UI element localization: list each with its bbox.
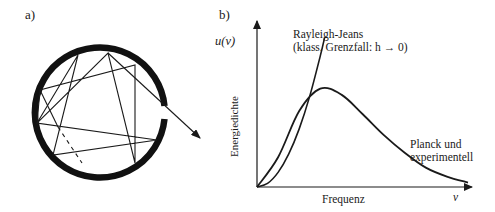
- y-axis-symbol: u(ν): [215, 35, 235, 48]
- cavity-diagram: [0, 0, 495, 212]
- cavity-wall: [35, 47, 165, 177]
- rayleigh-jeans-curve: [257, 38, 325, 187]
- emerging-ray-arrow: [108, 53, 200, 138]
- rayleigh-jeans-label-line1: Rayleigh-Jeans: [293, 28, 408, 41]
- planck-annotation: Planck und experimentell: [410, 138, 473, 164]
- rayleigh-jeans-annotation: Rayleigh-Jeans (klass. Grenzfall: h → 0): [293, 28, 408, 54]
- planck-label-line2: experimentell: [410, 151, 473, 164]
- reflected-ray: [40, 90, 58, 127]
- x-axis-label: Frequenz: [322, 193, 365, 206]
- planck-label-line1: Planck und: [410, 138, 473, 151]
- x-axis-symbol: ν: [453, 191, 458, 204]
- hidden-ray-dashed: [58, 127, 82, 163]
- rayleigh-jeans-label-line2: (klass. Grenzfall: h → 0): [293, 41, 408, 54]
- y-axis-label: Energiedichte: [228, 77, 241, 177]
